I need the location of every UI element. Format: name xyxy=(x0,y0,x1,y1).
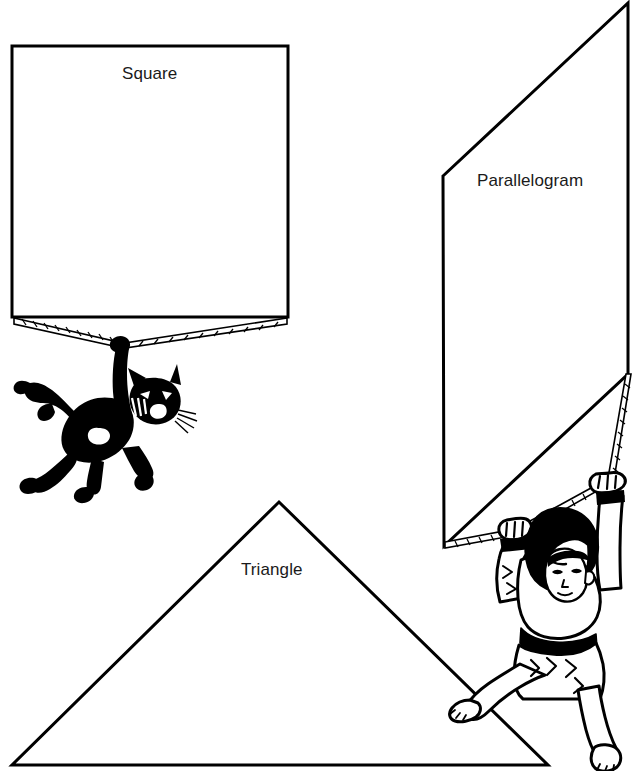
square-rope-left xyxy=(14,318,118,347)
parallelogram-shape xyxy=(443,3,628,546)
illustration-canvas: Square Parallelogram Triangle xyxy=(0,0,641,771)
cat-figure xyxy=(14,336,197,503)
square-label: Square xyxy=(122,64,177,84)
square-shape xyxy=(12,46,288,317)
scene-drawing xyxy=(0,0,641,771)
parallelogram-label: Parallelogram xyxy=(477,171,583,191)
square-rope-right xyxy=(125,318,287,348)
triangle-label: Triangle xyxy=(241,560,303,580)
square-kite-rope-group xyxy=(14,318,287,348)
